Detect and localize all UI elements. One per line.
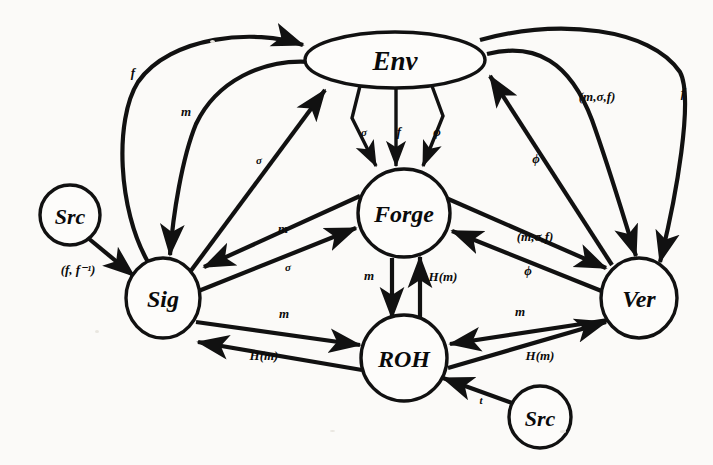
edge-label-env-ver-msf: (m,σ,f) <box>579 89 616 104</box>
node-env[interactable]: Env <box>305 32 485 88</box>
edge-label-roh-sig-hm: H(m) <box>249 348 279 363</box>
edge-label-sig-env-sigma: σ <box>256 154 263 166</box>
edge-label-env-forge-phi: ϕ <box>433 124 441 139</box>
node-src-left[interactable]: Src <box>40 185 100 245</box>
edge-label-src2-roh-t: t <box>479 394 483 406</box>
edge-sig-env-f <box>122 37 303 262</box>
node-roh[interactable]: ROH <box>361 315 447 401</box>
edge-label-env-forge-f: f <box>397 124 403 139</box>
edge-src2-roh-t <box>443 378 512 403</box>
diagram-svg: Env Forge Sig Ver ROH Src Src f m <box>0 0 713 465</box>
node-sig-label: Sig <box>147 286 179 312</box>
edge-label-sig-roh-m: m <box>279 306 289 321</box>
node-src-left-label: Src <box>55 204 86 229</box>
edge-label-ver-roh-m: m <box>515 304 525 319</box>
edge-label-forge-roh-m: m <box>364 268 374 283</box>
edge-roh-sig-hm <box>198 342 362 370</box>
node-forge-label: Forge <box>373 201 434 227</box>
edge-label-sig-env-f: f <box>131 65 137 80</box>
edge-label-roh-ver-hm: H(m) <box>525 348 555 363</box>
node-sig[interactable]: Sig <box>126 258 200 338</box>
edge-label-roh-forge-hm: H(m) <box>428 269 458 284</box>
edge-label-forge-ver-msf: (m,σ,f) <box>517 229 554 244</box>
node-ver[interactable]: Ver <box>601 258 677 338</box>
edge-label-env-forge-sigma: σ <box>361 126 368 138</box>
node-forge[interactable]: Forge <box>358 169 450 257</box>
node-src-bottom[interactable]: Src <box>509 386 571 448</box>
node-src-bottom-label: Src <box>525 406 556 431</box>
diagram-canvas: Env Forge Sig Ver ROH Src Src f m <box>0 0 713 465</box>
edge-label-sig-forge-sigma: σ <box>285 261 292 273</box>
edge-label-forge-sig-m: m <box>278 221 288 236</box>
node-env-label: Env <box>371 46 418 76</box>
edge-label-src1-sig-ff: (f, f⁻¹) <box>61 262 96 277</box>
node-roh-label: ROH <box>377 346 431 372</box>
edge-label-ver-forge-phi: ϕ <box>524 263 532 278</box>
edge-sig-roh-m <box>196 322 360 345</box>
edge-label-env-sig-m: m <box>181 104 191 119</box>
node-ver-label: Ver <box>622 286 656 312</box>
edge-ver-roh-m <box>450 320 608 344</box>
edge-label-ver-env-phi: ϕ <box>532 151 540 166</box>
